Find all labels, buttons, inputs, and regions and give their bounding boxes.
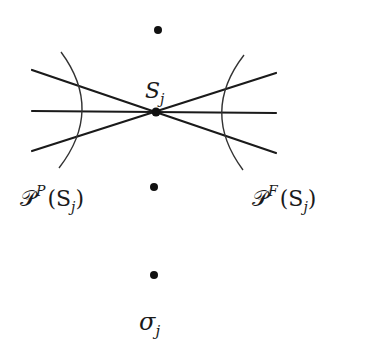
sigma-label: σj	[139, 308, 160, 340]
sj-label: Sj	[145, 78, 165, 107]
top-point	[154, 26, 162, 34]
cone-diagram: Sj 𝒫P(Sj) 𝒫F(Sj) σj	[0, 0, 367, 357]
past-cone-arc	[59, 52, 82, 168]
future-cone-label: 𝒫F(Sj)	[252, 183, 316, 215]
middle-point	[150, 183, 158, 191]
sj-point	[152, 108, 161, 117]
sigma-point	[150, 271, 158, 279]
past-cone-label: 𝒫P(Sj)	[20, 183, 84, 215]
